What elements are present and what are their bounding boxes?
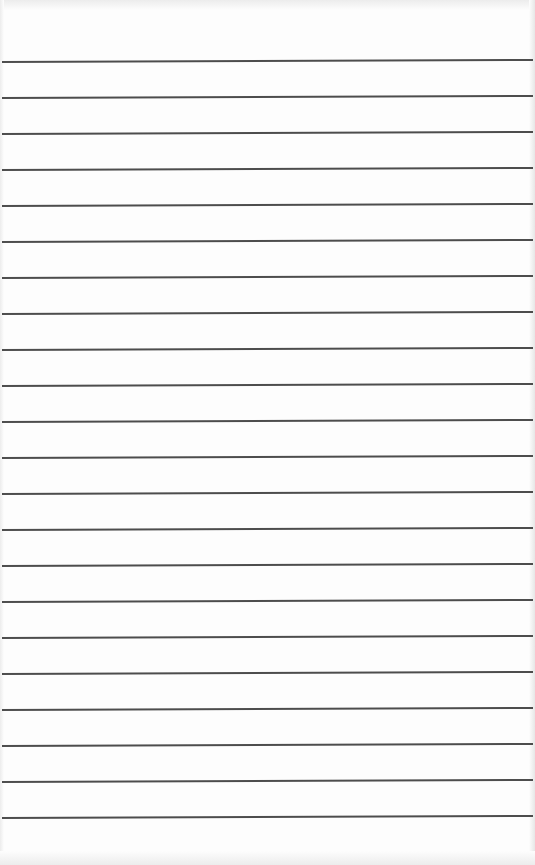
ruled-line (2, 383, 533, 387)
ruled-line (2, 59, 533, 63)
ruled-line (2, 311, 533, 315)
ruled-line (2, 455, 533, 459)
ruled-line (2, 527, 533, 531)
ruled-line (2, 203, 533, 207)
ruled-line (2, 491, 533, 495)
ruled-line (2, 743, 533, 747)
ruled-line (2, 167, 533, 171)
ruled-line (2, 779, 533, 783)
ruled-line (2, 275, 533, 279)
ruled-line (2, 815, 533, 819)
ruled-line (2, 635, 533, 639)
lined-paper (0, 0, 535, 865)
ruled-line (2, 671, 533, 675)
ruled-lines (0, 0, 535, 865)
ruled-line (2, 707, 533, 711)
ruled-line (2, 599, 533, 603)
ruled-line (2, 563, 533, 567)
ruled-line (2, 347, 533, 351)
ruled-line (2, 131, 533, 135)
ruled-line (2, 419, 533, 423)
ruled-line (2, 239, 533, 243)
ruled-line (2, 95, 533, 99)
